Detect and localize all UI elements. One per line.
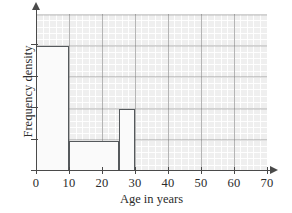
x-tick-label-70: 70 [253,176,281,191]
y-axis-arrow-icon [32,2,40,10]
x-axis-title: Age in years [36,192,267,207]
x-tick-label-40: 40 [154,176,182,191]
x-tick-label-50: 50 [187,176,215,191]
plot-area [36,14,267,171]
x-tick-20 [102,167,103,174]
x-tick-60 [234,167,235,174]
x-tick-10 [69,167,70,174]
x-tick-label-30: 30 [121,176,149,191]
y-axis-title: Frequency density [21,17,36,167]
x-tick-50 [201,167,202,174]
x-tick-label-60: 60 [220,176,248,191]
x-tick-30 [135,167,136,174]
y-axis-line [36,8,37,171]
x-axis-arrow-icon [270,166,278,174]
x-tick-40 [168,167,169,174]
histogram-chart: 010203040506070 Age in years Frequency d… [0,0,292,213]
bar-25-30 [119,109,136,171]
x-tick-label-20: 20 [88,176,116,191]
bar-10-25 [69,141,119,171]
x-tick-70 [267,167,268,174]
x-axis-line [36,170,272,171]
x-tick-label-0: 0 [22,176,50,191]
x-tick-label-10: 10 [55,176,83,191]
y-tick-0 [31,170,38,171]
bar-0-10 [36,46,69,171]
